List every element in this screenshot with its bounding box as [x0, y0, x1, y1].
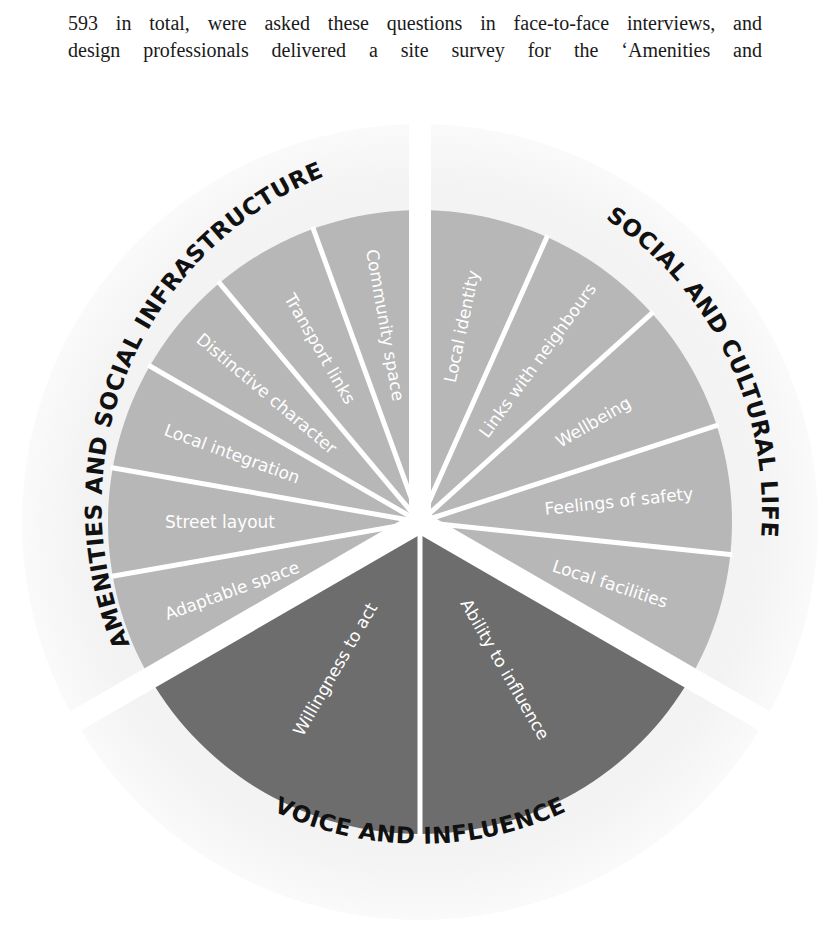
segment-label-street-layout: Street layout: [165, 512, 275, 532]
social-sustainability-wheel: Local identityLinks with neighboursWellb…: [0, 0, 825, 938]
center-hub: [406, 508, 434, 536]
